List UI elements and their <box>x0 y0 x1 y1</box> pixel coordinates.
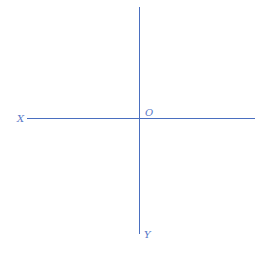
x-axis-label: X <box>17 114 24 124</box>
y-axis-label: Y <box>144 230 151 240</box>
x-axis-line <box>27 118 255 119</box>
origin-label: O <box>145 108 153 118</box>
y-axis-line <box>139 7 140 234</box>
